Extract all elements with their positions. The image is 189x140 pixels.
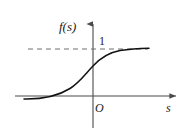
y-axis-label: f(s) xyxy=(59,19,76,34)
sigmoid-curve xyxy=(24,48,149,99)
asymptote-tick-label: 1 xyxy=(99,34,105,48)
figure-container: f(s) 1 O s xyxy=(0,0,189,140)
x-axis-label: s xyxy=(166,101,171,115)
origin-label: O xyxy=(95,101,104,115)
function-plot: f(s) 1 O s xyxy=(0,0,189,140)
